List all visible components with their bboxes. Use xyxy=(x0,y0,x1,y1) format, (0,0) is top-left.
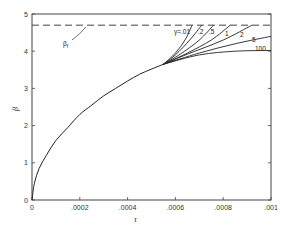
y-tick-label: 0 xyxy=(24,197,28,204)
y-tick-label: 2 xyxy=(24,122,28,129)
curve-label: .5 xyxy=(209,28,215,35)
x-tick-label: .0006 xyxy=(167,204,185,211)
curves xyxy=(32,25,271,200)
plot-frame xyxy=(32,14,271,200)
beta-f-label: βf xyxy=(63,40,69,49)
y-tick-label: 4 xyxy=(24,48,28,55)
x-tick-label: .0008 xyxy=(214,204,232,211)
common-curve xyxy=(32,64,163,200)
y-tick-label: 5 xyxy=(24,11,28,18)
curve-label: γ=.01 xyxy=(174,28,190,36)
y-tick-label: 3 xyxy=(24,85,28,92)
curve-label: 5 xyxy=(252,36,256,43)
x-tick-label: 0 xyxy=(30,204,34,211)
curve-label: 1 xyxy=(225,30,229,37)
y-tick-label: 1 xyxy=(24,159,28,166)
curve-label: 2 xyxy=(240,31,244,38)
x-axis-title: τ xyxy=(134,215,138,224)
plot: 0.0002.0004.0006.0008.001012345 γ=.01.2.… xyxy=(0,0,292,236)
x-tick-label: .0004 xyxy=(119,204,137,211)
y-axis-title: β xyxy=(11,107,20,112)
curve-label: .2 xyxy=(198,28,204,35)
beta-f-leader xyxy=(72,27,86,40)
x-tick-label: .001 xyxy=(264,204,278,211)
x-tick-label: .0002 xyxy=(71,204,89,211)
curve-label: 100 xyxy=(255,45,266,52)
